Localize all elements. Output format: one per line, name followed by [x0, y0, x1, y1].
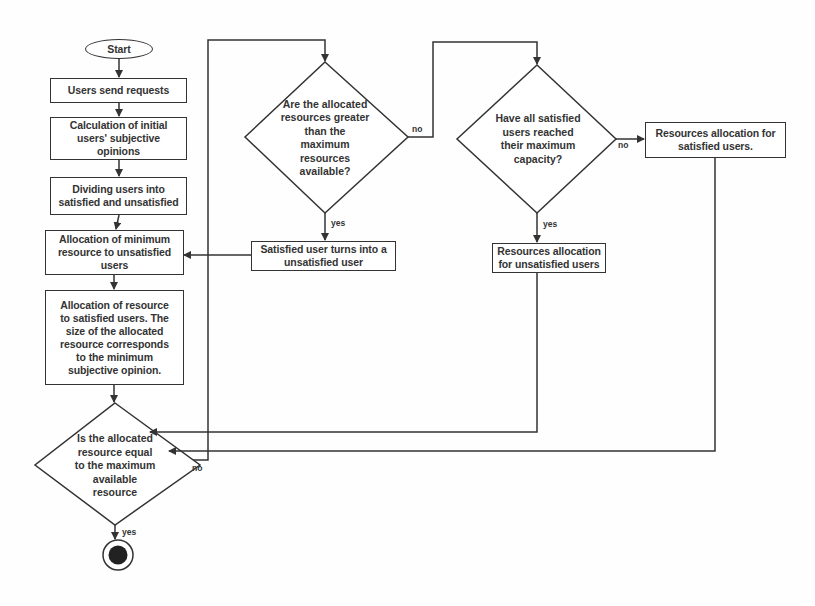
step-alloc-satisfied: Allocation of resource to satisfied user…: [45, 290, 184, 385]
edge-label-equal-max-yes: yes: [122, 527, 136, 537]
step-label: Satisfied user turns into a unsatisfied …: [256, 243, 391, 269]
edge-label-greater-max-no: no: [412, 124, 422, 134]
arrow-satisfied-alloc-return: [169, 157, 715, 451]
step-label: Allocation of minimum resource to unsati…: [50, 233, 179, 272]
step-label: Resources allocation for unsatisfied use…: [495, 245, 603, 271]
edge-label-all-satisfied-no: no: [618, 140, 628, 150]
step-label: Resources allocation for satisfied users…: [650, 127, 781, 153]
arrow-divide-to-min: [116, 215, 119, 229]
step-users-send-requests: Users send requests: [50, 78, 187, 103]
start-node: Start: [85, 39, 153, 59]
step-resources-alloc-unsatisfied: Resources allocation for unsatisfied use…: [492, 243, 606, 273]
edge-label-greater-max-yes: yes: [331, 218, 345, 228]
decision-all-satisfied-max: Have all satisfied users reached their m…: [495, 97, 581, 181]
edge-label-equal-max-no: no: [192, 463, 202, 473]
step-alloc-min-unsatisfied: Allocation of minimum resource to unsati…: [45, 230, 184, 275]
step-label: Calculation of initial users' subjective…: [55, 119, 182, 158]
decision-equal-max: Is the allocated resource equal to the m…: [72, 418, 158, 514]
step-label: Users send requests: [68, 84, 169, 97]
edge-label-all-satisfied-yes: yes: [543, 219, 557, 229]
step-satisfied-turns-unsatisfied: Satisfied user turns into a unsatisfied …: [251, 241, 396, 271]
end-node: [103, 540, 133, 570]
step-label: Dividing users into satisfied and unsati…: [55, 183, 182, 209]
decision-label: Are the allocated resources greater than…: [280, 98, 370, 179]
step-calc-opinions: Calculation of initial users' subjective…: [50, 117, 187, 160]
step-label: Allocation of resource to satisfied user…: [54, 299, 175, 377]
decision-label: Have all satisfied users reached their m…: [495, 112, 581, 166]
start-label: Start: [107, 43, 130, 56]
step-dividing-users: Dividing users into satisfied and unsati…: [50, 177, 187, 215]
decision-greater-max: Are the allocated resources greater than…: [280, 82, 370, 194]
decision-label: Is the allocated resource equal to the m…: [72, 432, 158, 500]
step-resources-alloc-satisfied: Resources allocation for satisfied users…: [645, 122, 786, 158]
